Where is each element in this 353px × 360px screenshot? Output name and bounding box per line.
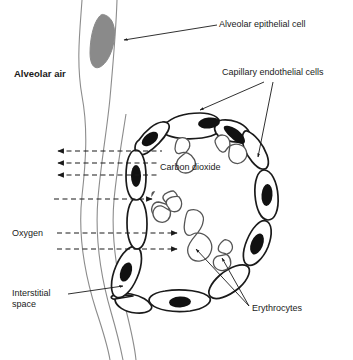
leader-alveolar-epithelial-cell [124, 25, 217, 40]
label-carbon-dioxide: Carbon dioxide [160, 162, 221, 173]
label-oxygen: Oxygen [12, 228, 43, 239]
leader-capillary-endothelial-left [200, 82, 264, 110]
label-capillary-endothelial-cells: Capillary endothelial cells [222, 67, 324, 78]
endothelial-nucleus-left-upper [131, 165, 141, 187]
label-interstitial-space-line2: space [12, 299, 36, 309]
label-interstitial-space-line1: Interstitial [12, 288, 51, 298]
alveolar-capillary-figure: Alveolar epithelial cell Alveolar air Ca… [0, 0, 353, 360]
label-alveolar-air: Alveolar air [14, 68, 66, 79]
epithelial-nucleus [90, 14, 115, 67]
leader-capillary-endothelial-right [258, 82, 273, 157]
endothelial-cell-left-middle [127, 198, 147, 249]
erythrocyte-left-lumen [152, 192, 154, 195]
label-interstitial-space: Interstitialspace [12, 288, 51, 310]
erythrocyte-center [180, 209, 217, 263]
erythrocyte-left-mid [151, 195, 185, 223]
label-alveolar-epithelial-cell: Alveolar epithelial cell [219, 19, 306, 30]
label-erythrocytes: Erythrocytes [252, 303, 302, 314]
